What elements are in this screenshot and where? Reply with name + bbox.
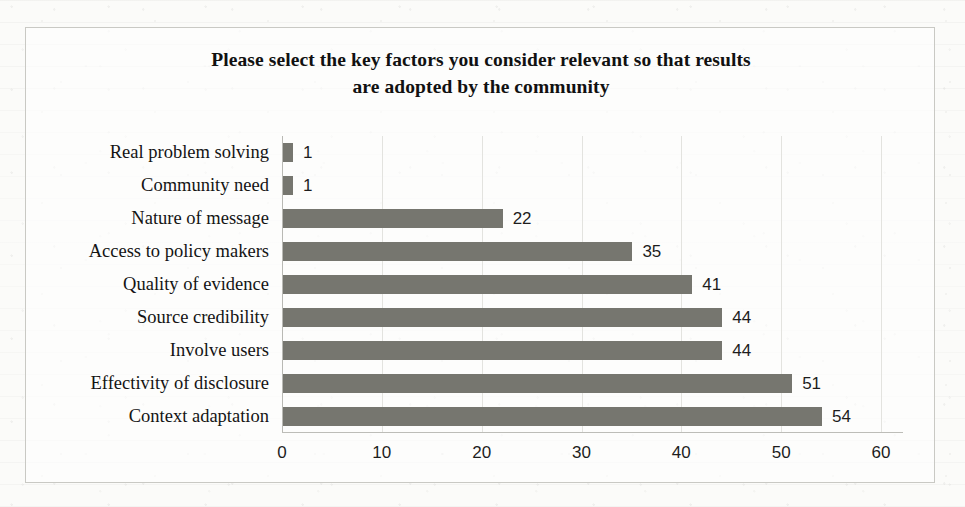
gridline-60	[881, 136, 882, 433]
bar-value-label: 44	[732, 307, 751, 328]
category-label: Real problem solving	[0, 140, 269, 164]
bar-value-label: 41	[702, 274, 721, 295]
x-tick-20: 20	[472, 442, 491, 463]
bar[interactable]	[283, 341, 722, 360]
bar-row: Nature of message22	[282, 202, 881, 235]
chart-title: Please select the key factors you consid…	[86, 46, 876, 100]
bar[interactable]	[283, 209, 503, 228]
bar[interactable]	[283, 176, 293, 195]
x-tick-0: 0	[277, 442, 286, 463]
bar-value-label: 22	[513, 208, 532, 229]
bar-value-label: 35	[642, 241, 661, 262]
category-label: Community need	[0, 173, 269, 197]
plot-area: Real problem solving1Community need1Natu…	[282, 136, 881, 433]
bar-row: Access to policy makers35	[282, 235, 881, 268]
bar[interactable]	[283, 308, 722, 327]
category-label: Quality of evidence	[0, 272, 269, 296]
bar-value-label: 1	[303, 175, 312, 196]
x-tick-50: 50	[772, 442, 791, 463]
bar[interactable]	[283, 407, 822, 426]
bar-row: Effectivity of disclosure51	[282, 367, 881, 400]
category-label: Access to policy makers	[0, 239, 269, 263]
bar-value-label: 1	[303, 142, 312, 163]
category-label: Involve users	[0, 338, 269, 362]
category-label: Context adaptation	[0, 404, 269, 428]
bar[interactable]	[283, 275, 692, 294]
category-label: Nature of message	[0, 206, 269, 230]
bar-row: Real problem solving1	[282, 136, 881, 169]
bar[interactable]	[283, 374, 792, 393]
bar-value-label: 51	[802, 373, 821, 394]
bar-row: Quality of evidence41	[282, 268, 881, 301]
bar-row: Context adaptation54	[282, 400, 881, 433]
bar-row: Involve users44	[282, 334, 881, 367]
chart-title-line-1: Please select the key factors you consid…	[86, 46, 876, 73]
x-tick-30: 30	[572, 442, 591, 463]
category-label: Effectivity of disclosure	[0, 371, 269, 395]
bar[interactable]	[283, 242, 632, 261]
x-tick-60: 60	[872, 442, 891, 463]
x-tick-10: 10	[372, 442, 391, 463]
category-label: Source credibility	[0, 305, 269, 329]
chart-frame: Please select the key factors you consid…	[25, 27, 935, 483]
bar-value-label: 44	[732, 340, 751, 361]
x-tick-40: 40	[672, 442, 691, 463]
bar[interactable]	[283, 143, 293, 162]
bar-row: Source credibility44	[282, 301, 881, 334]
chart-title-line-2: are adopted by the community	[86, 73, 876, 100]
bar-row: Community need1	[282, 169, 881, 202]
bar-value-label: 54	[832, 406, 851, 427]
